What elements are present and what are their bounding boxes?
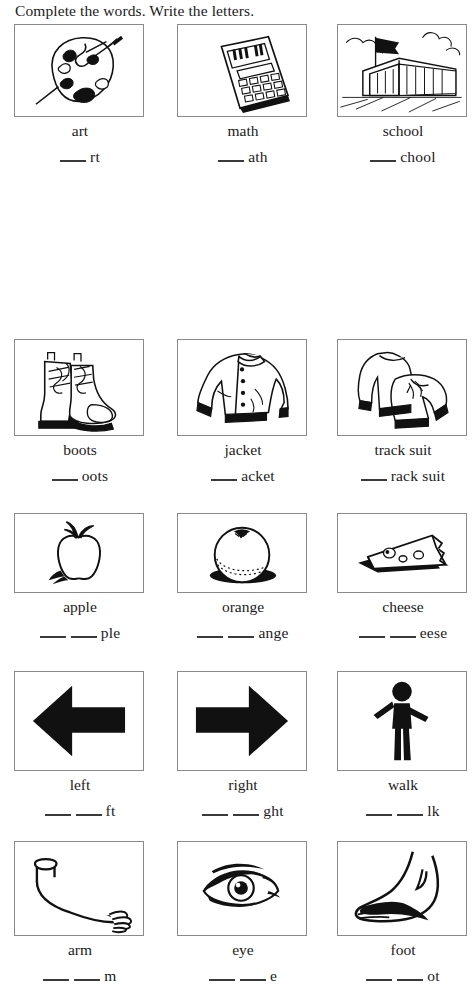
- word-tail: oots: [82, 467, 109, 484]
- exercise-item-math: math ath: [177, 24, 309, 165]
- word-label: boots: [14, 441, 146, 458]
- blank-space[interactable]: [218, 149, 244, 162]
- blank-space[interactable]: [40, 625, 66, 638]
- instruction-text: Complete the words. Write the letters.: [15, 2, 254, 20]
- answer-line[interactable]: m: [14, 967, 146, 984]
- exercise-item-foot: foot ot: [337, 841, 469, 984]
- exercise-item-right: right ght: [177, 671, 309, 819]
- word-label: foot: [337, 941, 469, 958]
- exercise-item-jacket: jacket acket: [177, 339, 309, 484]
- word-label: cheese: [337, 598, 469, 615]
- answer-line[interactable]: ath: [177, 148, 309, 165]
- answer-line[interactable]: ange: [177, 624, 309, 641]
- picture-box-apple: [14, 513, 144, 593]
- word-label: track suit: [337, 441, 469, 458]
- cheese-wedge-icon: [338, 514, 466, 592]
- paint-palette-icon: [15, 25, 143, 116]
- blank-space[interactable]: [74, 968, 100, 981]
- word-label: walk: [337, 776, 469, 793]
- answer-line[interactable]: oots: [14, 467, 146, 484]
- blank-space[interactable]: [228, 625, 254, 638]
- exercise-item-orange: orange ange: [177, 513, 309, 641]
- answer-line[interactable]: ot: [337, 967, 469, 984]
- picture-box-arm: [14, 841, 144, 936]
- picture-box-right-arrow: [177, 671, 307, 771]
- exercise-item-walk: walk lk: [337, 671, 469, 819]
- blank-space[interactable]: [397, 803, 423, 816]
- blank-space[interactable]: [361, 468, 387, 481]
- calculator-icon: [178, 25, 306, 116]
- word-label: art: [14, 122, 146, 139]
- word-tail: eese: [420, 624, 447, 641]
- word-label: math: [177, 122, 309, 139]
- exercise-item-left: left ft: [14, 671, 146, 819]
- exercise-item-eye: eye e: [177, 841, 309, 984]
- right-arrow-icon: [178, 672, 306, 770]
- word-label: school: [337, 122, 469, 139]
- blank-space[interactable]: [202, 803, 228, 816]
- exercise-item-track-suit: track suit rack suit: [337, 339, 469, 484]
- picture-box-eye: [177, 841, 307, 936]
- answer-line[interactable]: ple: [14, 624, 146, 641]
- blank-space[interactable]: [60, 149, 86, 162]
- answer-line[interactable]: ft: [14, 802, 146, 819]
- blank-space[interactable]: [397, 968, 423, 981]
- answer-line[interactable]: ght: [177, 802, 309, 819]
- track-suit-icon: [338, 340, 466, 435]
- answer-line[interactable]: acket: [177, 467, 309, 484]
- word-tail: lk: [427, 802, 439, 819]
- answer-line[interactable]: eese: [337, 624, 469, 641]
- word-tail: acket: [241, 467, 275, 484]
- blank-space[interactable]: [45, 803, 71, 816]
- word-tail: rt: [90, 148, 100, 165]
- blank-space[interactable]: [240, 968, 266, 981]
- picture-box-boots: [14, 339, 144, 436]
- answer-line[interactable]: rack suit: [337, 467, 469, 484]
- word-tail: ght: [263, 802, 283, 819]
- picture-box-paint-palette: [14, 24, 144, 117]
- picture-box-cheese-wedge: [337, 513, 467, 593]
- picture-box-foot: [337, 841, 467, 936]
- blank-space[interactable]: [370, 149, 396, 162]
- word-label: eye: [177, 941, 309, 958]
- word-tail: e: [270, 967, 277, 984]
- picture-box-school-building: [337, 24, 467, 117]
- answer-line[interactable]: e: [177, 967, 309, 984]
- blank-space[interactable]: [211, 468, 237, 481]
- word-label: right: [177, 776, 309, 793]
- word-tail: rack suit: [391, 467, 446, 484]
- eye-icon: [178, 842, 306, 935]
- blank-space[interactable]: [52, 468, 78, 481]
- answer-line[interactable]: lk: [337, 802, 469, 819]
- word-label: orange: [177, 598, 309, 615]
- picture-box-track-suit: [337, 339, 467, 436]
- exercise-item-apple: apple ple: [14, 513, 146, 641]
- blank-space[interactable]: [197, 625, 223, 638]
- word-tail: m: [104, 967, 116, 984]
- foot-icon: [338, 842, 466, 935]
- blank-space[interactable]: [71, 625, 97, 638]
- blank-space[interactable]: [76, 803, 102, 816]
- jacket-icon: [178, 340, 306, 435]
- blank-space[interactable]: [233, 803, 259, 816]
- word-tail: chool: [400, 148, 435, 165]
- blank-space[interactable]: [359, 625, 385, 638]
- school-building-icon: [338, 25, 466, 116]
- blank-space[interactable]: [366, 968, 392, 981]
- word-tail: ple: [101, 624, 121, 641]
- picture-box-calculator: [177, 24, 307, 117]
- picture-box-orange: [177, 513, 307, 593]
- walking-person-icon: [338, 672, 466, 770]
- answer-line[interactable]: rt: [14, 148, 146, 165]
- blank-space[interactable]: [209, 968, 235, 981]
- blank-space[interactable]: [390, 625, 416, 638]
- exercise-item-school: school chool: [337, 24, 469, 165]
- exercise-item-boots: boots oots: [14, 339, 146, 484]
- answer-line[interactable]: chool: [337, 148, 469, 165]
- worksheet-row: art rt: [0, 24, 472, 189]
- picture-box-left-arrow: [14, 671, 144, 771]
- arm-icon: [15, 842, 143, 935]
- blank-space[interactable]: [366, 803, 392, 816]
- blank-space[interactable]: [43, 968, 69, 981]
- word-label: jacket: [177, 441, 309, 458]
